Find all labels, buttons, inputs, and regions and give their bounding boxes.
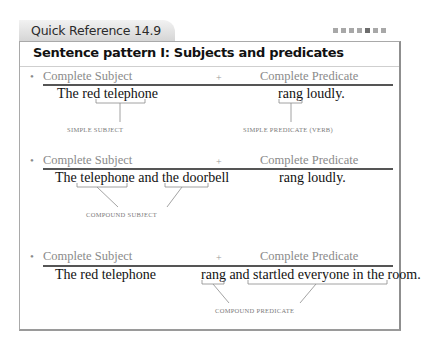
plus-sign: +	[216, 72, 222, 83]
predicate-text: rang loudly.	[278, 86, 345, 102]
predicate-label: Complete Predicate	[260, 153, 358, 168]
subject-text: The telephone and the doorbell	[55, 170, 229, 186]
bullet-icon: •	[30, 250, 34, 262]
dot-icon	[341, 28, 346, 33]
caption-compound-subject: COMPOUND SUBJECT	[86, 211, 157, 218]
dot-icon	[333, 28, 338, 33]
subject-label: Complete Subject	[43, 69, 132, 84]
dot-icon	[381, 28, 386, 33]
caption-simple-subject: SIMPLE SUBJECT	[67, 126, 123, 133]
predicate-text: rang loudly.	[279, 170, 346, 186]
box-heading: Sentence pattern I: Subjects and predica…	[33, 45, 344, 60]
predicate-text: rang and startled everyone in the room.	[201, 267, 421, 283]
bullet-icon: •	[30, 70, 34, 82]
dot-icon	[349, 28, 354, 33]
dot-icon	[365, 28, 370, 33]
subject-label: Complete Subject	[43, 153, 132, 168]
heading-divider	[20, 66, 399, 67]
plus-sign: +	[216, 156, 222, 167]
caption-compound-predicate: COMPOUND PREDICATE	[215, 307, 294, 314]
dot-icon	[357, 28, 362, 33]
quick-reference-tab: Quick Reference 14.9	[19, 20, 175, 42]
tab-title: Quick Reference 14.9	[31, 23, 161, 38]
subject-text: The red telephone	[55, 267, 156, 283]
bullet-icon: •	[30, 154, 34, 166]
predicate-label: Complete Predicate	[260, 69, 358, 84]
decorative-dots	[333, 28, 386, 34]
caption-simple-predicate: SIMPLE PREDICATE (VERB)	[243, 126, 333, 133]
subject-label: Complete Subject	[43, 249, 132, 264]
dot-icon	[373, 28, 378, 33]
plus-sign: +	[216, 252, 222, 263]
subject-text: The red telephone	[57, 86, 158, 102]
predicate-label: Complete Predicate	[260, 249, 358, 264]
